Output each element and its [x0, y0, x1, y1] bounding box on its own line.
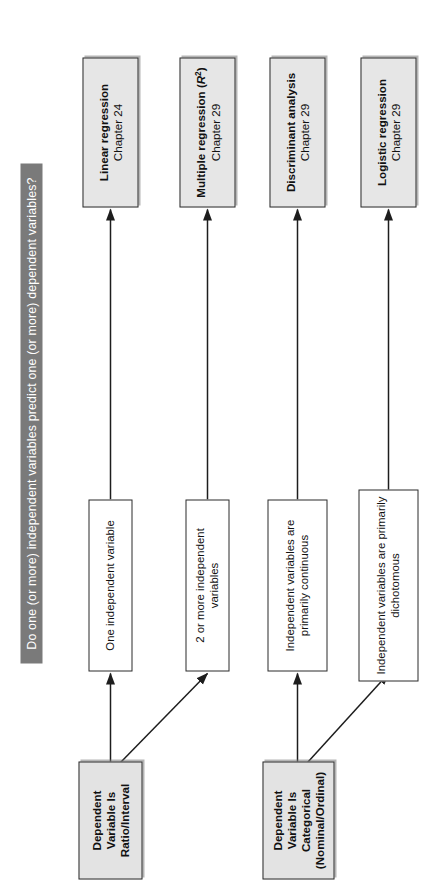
- flowchart-surface: Do one (or more) independent variables p…: [0, 0, 425, 895]
- node-line-1: Dependent Variable Is: [89, 767, 117, 873]
- node-line-1: Dependent Variable Is: [270, 767, 298, 873]
- node-logistic-regression[interactable]: Logistic regression Chapter 29: [360, 57, 416, 207]
- result-chapter: Chapter 24: [110, 103, 124, 160]
- result-title: Linear regression: [96, 83, 110, 180]
- link-ratio-to-multi-iv: [120, 673, 207, 762]
- question-banner: Do one (or more) independent variables p…: [20, 163, 42, 663]
- result-chapter: Chapter 29: [297, 103, 311, 160]
- node-two-or-more-independent-variables[interactable]: 2 or more independent variables: [185, 499, 229, 671]
- node-multiple-regression[interactable]: Multiple regression (R2) Chapter 29: [179, 57, 235, 207]
- node-line-1: Independent variables are primarily: [374, 496, 388, 674]
- node-line-1: 2 or more independent variables: [193, 505, 221, 665]
- node-line-1: One independent variable: [103, 520, 117, 650]
- result-chapter: Chapter 29: [208, 103, 222, 160]
- node-line-2: Categorical: [298, 788, 312, 851]
- node-linear-regression[interactable]: Linear regression Chapter 24: [82, 57, 138, 207]
- node-independent-variables-primarily-continuous[interactable]: Independent variables are primarily cont…: [267, 499, 327, 671]
- node-one-independent-variable[interactable]: One independent variable: [88, 499, 132, 671]
- result-title: Discriminant analysis: [283, 72, 297, 191]
- node-independent-variables-primarily-dichotomous[interactable]: Independent variables are primarily dich…: [358, 489, 418, 681]
- node-discriminant-analysis[interactable]: Discriminant analysis Chapter 29: [269, 57, 325, 207]
- link-categorical-to-dichotomous-iv: [307, 673, 388, 762]
- node-line-3: (Nominal/Ordinal): [312, 771, 326, 868]
- result-title: Logistic regression: [374, 79, 388, 186]
- node-line-2: primarily continuous: [297, 534, 311, 635]
- node-dependent-variable-categorical[interactable]: Dependent Variable Is Categorical (Nomin…: [262, 761, 334, 879]
- node-line-2: Ratio/Interval: [117, 783, 131, 856]
- result-chapter: Chapter 29: [388, 103, 402, 160]
- node-dependent-variable-ratio-interval[interactable]: Dependent Variable Is Ratio/Interval: [78, 761, 142, 879]
- figure-page: B5 Do one (or more) independent v: [0, 0, 425, 895]
- node-line-2: dichotomous: [388, 553, 402, 618]
- node-line-1: Independent variables are: [283, 519, 297, 651]
- result-title: Multiple regression (R2): [192, 67, 208, 197]
